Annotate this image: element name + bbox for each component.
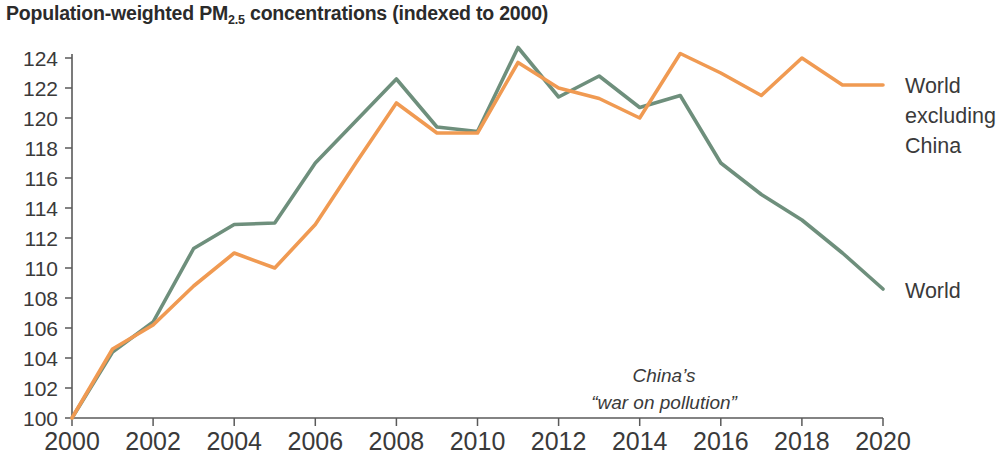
y-axis-tick-label: 114 [25, 197, 59, 220]
y-axis-tick-label: 124 [23, 47, 58, 70]
series-label-world: World [905, 279, 961, 303]
y-axis-tick-labels: 100102104106108110112114116118120122124 [23, 47, 58, 430]
x-axis-tick-label: 2018 [774, 427, 830, 455]
x-axis-tick-label: 2016 [693, 427, 749, 455]
data-series-group [72, 48, 883, 419]
x-axis-tick-label: 2010 [450, 427, 506, 455]
annotation-line-1: China’s [633, 365, 697, 386]
y-axis-tick-label: 116 [25, 167, 58, 190]
y-axis-tick-label: 120 [23, 107, 58, 130]
x-axis-tick-label: 2012 [531, 427, 587, 455]
x-axis-tick-label: 2002 [125, 427, 181, 455]
x-axis-tick-label: 2008 [369, 427, 425, 455]
x-axis-tick-label: 2020 [855, 427, 911, 455]
chart-container: Population-weighted PM2.5 concentrations… [0, 0, 1006, 455]
x-axis-tick-label: 2004 [206, 427, 262, 455]
x-axis-tick-label: 2006 [287, 427, 343, 455]
y-axis-tick-label: 118 [25, 137, 58, 160]
x-axis-tick-label: 2000 [44, 427, 100, 455]
x-axis-tick-marks [72, 418, 883, 426]
y-axis-tick-label: 110 [25, 257, 58, 280]
x-axis-tick-labels: 2000200220042006200820102012201420162018… [44, 427, 911, 455]
series-labels: WorldexcludingChinaWorld [905, 74, 996, 303]
y-axis-tick-label: 106 [23, 317, 58, 340]
series-line-world [72, 48, 883, 419]
series-label-world-excluding-china: excluding [905, 104, 996, 128]
chart-annotation: China’s“war on pollution” [591, 365, 738, 413]
chart-plot-area: 100102104106108110112114116118120122124 … [0, 0, 1006, 455]
series-label-world-excluding-china: World [905, 74, 961, 98]
y-axis-tick-label: 102 [23, 377, 58, 400]
series-line-world-excluding-china [72, 54, 883, 419]
y-axis-tick-marks [65, 58, 72, 418]
y-axis-tick-label: 108 [23, 287, 58, 310]
y-axis-tick-label: 112 [25, 227, 58, 250]
series-label-world-excluding-china: China [905, 134, 961, 158]
annotation-line-2: “war on pollution” [591, 392, 738, 413]
x-axis-tick-label: 2014 [612, 427, 668, 455]
y-axis-tick-label: 104 [23, 347, 58, 370]
y-axis-tick-label: 122 [23, 77, 58, 100]
